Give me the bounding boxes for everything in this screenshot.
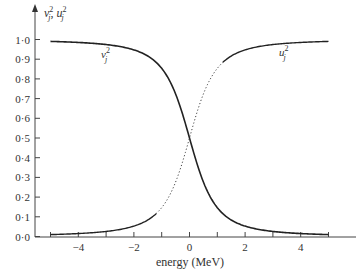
y-tick-label: 0·0 — [15, 231, 30, 243]
x-tick-label: 0 — [187, 241, 193, 253]
y-tick-label: 0·8 — [15, 73, 30, 85]
occupation-probability-plot: 0·00·10·20·30·40·50·60·70·80·91·0−4−2024… — [0, 0, 361, 273]
x-tick-label: 4 — [298, 241, 304, 253]
y-tick-label: 0·5 — [15, 132, 30, 144]
y-tick-label: 0·6 — [15, 112, 30, 124]
y-tick-label: 0·4 — [15, 152, 30, 164]
curve-label-v2: v2j — [101, 46, 110, 64]
x-axis-title: energy (MeV) — [156, 255, 224, 269]
curves — [51, 41, 329, 234]
y-tick-label: 0·9 — [15, 53, 30, 65]
y-tick-label: 1·0 — [15, 34, 30, 46]
y-tick-label: 0·1 — [15, 211, 30, 223]
x-tick-label: 2 — [242, 241, 248, 253]
u2-curve-upper — [223, 41, 329, 62]
y-axis-arrow-icon — [32, 4, 38, 12]
y-axis-title: v2j,u2j — [44, 5, 67, 22]
x-tick-label: −4 — [72, 241, 84, 253]
x-tick-label: −2 — [128, 241, 140, 253]
y-tick-label: 0·7 — [15, 93, 30, 105]
v2-curve — [51, 41, 329, 234]
curve-label-u2: u2j — [279, 44, 289, 62]
chart-container: 0·00·10·20·30·40·50·60·70·80·91·0−4−2024… — [0, 0, 361, 273]
u2-curve-lower — [51, 214, 157, 235]
y-tick-label: 0·2 — [15, 191, 30, 203]
y-tick-label: 0·3 — [15, 171, 30, 183]
